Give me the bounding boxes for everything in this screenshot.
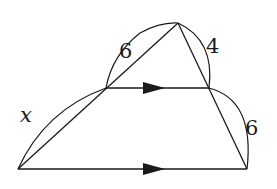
label-lower-left: x xyxy=(20,103,32,127)
label-lower-right: 6 xyxy=(245,116,258,140)
label-upper-left: 6 xyxy=(119,39,132,63)
parallel-arrow-icon-top xyxy=(143,82,165,94)
label-upper-right: 4 xyxy=(206,34,219,58)
side-left xyxy=(18,23,178,169)
parallel-arrow-icon-bottom xyxy=(143,163,165,175)
triangle-diagram: 6 4 6 x xyxy=(0,0,277,189)
